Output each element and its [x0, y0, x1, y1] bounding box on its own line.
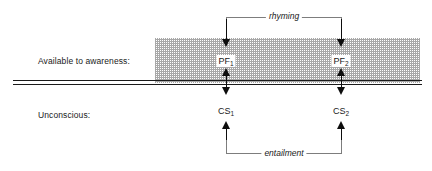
- rhyming-arrow-left-shaft: [226, 19, 227, 41]
- pf1-cs1-arrow-shaft: [226, 74, 227, 88]
- node-pf1: PF1: [216, 55, 235, 67]
- diagram-canvas: Available to awareness: Unconscious: rhy…: [0, 0, 432, 171]
- node-pf1-subscript: 1: [230, 60, 234, 67]
- boundary-rule-upper: [13, 80, 422, 81]
- node-cs2-base: CS: [333, 106, 346, 116]
- awareness-shaded-band: [155, 38, 420, 83]
- node-cs1-subscript: 1: [230, 110, 234, 117]
- rhyming-arrow-left-head-icon: [222, 39, 230, 47]
- entailment-label: entailment: [261, 148, 306, 158]
- pf2-cs2-arrow-shaft: [341, 74, 342, 88]
- node-pf2-base: PF: [333, 56, 345, 66]
- row-label-available-to-awareness: Available to awareness:: [38, 56, 130, 66]
- entailment-bracket-right-stem: [341, 140, 342, 154]
- node-pf2-subscript: 2: [345, 60, 349, 67]
- node-cs1-base: CS: [218, 106, 231, 116]
- node-pf2: PF2: [331, 55, 350, 67]
- entailment-bracket-left-stem: [226, 140, 227, 154]
- rhyming-label: rhyming: [266, 11, 302, 21]
- node-cs2-subscript: 2: [345, 110, 349, 117]
- row-label-unconscious: Unconscious:: [38, 110, 90, 120]
- node-cs2: CS2: [333, 106, 349, 116]
- node-cs1: CS1: [218, 106, 234, 116]
- node-pf1-base: PF: [218, 56, 230, 66]
- consciousness-boundary-line: [13, 80, 422, 85]
- pf2-cs2-arrow-down-head-icon: [337, 87, 345, 95]
- rhyming-arrow-right-shaft: [341, 19, 342, 41]
- rhyming-arrow-right-head-icon: [337, 39, 345, 47]
- boundary-rule-lower: [13, 84, 422, 85]
- pf1-cs1-arrow-down-head-icon: [222, 87, 230, 95]
